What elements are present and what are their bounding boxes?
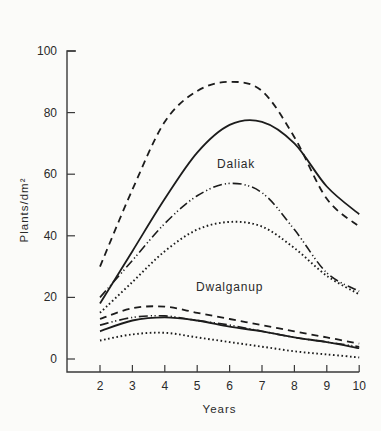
y-axis-title: Plants/dm²	[18, 178, 30, 243]
x-tick-label: 2	[97, 379, 104, 393]
annotation-dwalganup: Dwalganup	[196, 280, 263, 294]
y-tick-label: 100	[37, 44, 57, 58]
x-tick-label: 8	[291, 379, 298, 393]
x-tick-label: 6	[226, 379, 233, 393]
x-axis-title: Years	[203, 403, 237, 415]
series-line-dwalganup-d	[100, 333, 359, 358]
labels-group: YearsPlants/dm²DaliakDwalganup	[18, 157, 263, 415]
y-tick-label: 20	[44, 290, 58, 304]
annotation-daliak: Daliak	[217, 157, 255, 171]
y-tick-label: 40	[44, 229, 58, 243]
series-line-daliak-b	[100, 120, 359, 303]
series-line-daliak-d	[100, 222, 359, 313]
y-tick-label: 60	[44, 167, 58, 181]
series-line-dwalganup-a	[100, 306, 359, 343]
x-tick-label: 9	[323, 379, 330, 393]
x-tick-label: 7	[259, 379, 266, 393]
x-tick-label: 5	[194, 379, 201, 393]
series-line-dwalganup-b	[100, 317, 359, 348]
y-tick-label: 80	[44, 106, 58, 120]
x-tick-label: 3	[129, 379, 136, 393]
series-group	[100, 82, 359, 358]
line-chart: 0204060801002345678910 YearsPlants/dm²Da…	[0, 0, 381, 431]
y-tick-label: 0	[50, 352, 57, 366]
x-tick-label: 4	[161, 379, 168, 393]
x-tick-label: 10	[353, 379, 367, 393]
